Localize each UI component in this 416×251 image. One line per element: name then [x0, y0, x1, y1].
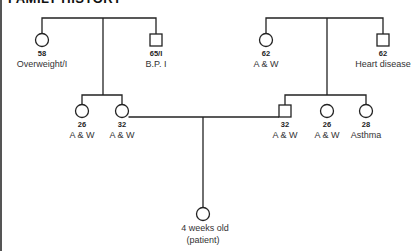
left-sibship-line [82, 95, 122, 105]
paternal-grandfather-symbol [150, 34, 162, 46]
aunt1-age: 26 [78, 120, 86, 129]
father-condition: A & W [272, 130, 297, 140]
pgm-age: 58 [38, 49, 46, 58]
patient-label: (patient) [186, 235, 219, 245]
left-grandparent-line [42, 18, 156, 34]
aunt2-age: 26 [323, 120, 331, 129]
mgf-age: 62 [379, 49, 387, 58]
maternal-grandfather-symbol [377, 34, 389, 46]
maternal-grandmother-symbol [260, 34, 273, 47]
pgf-condition: B.P. I [146, 59, 167, 69]
mother-age: 32 [118, 120, 126, 129]
aunt-26b-symbol [321, 105, 334, 118]
mgm-condition: A & W [253, 59, 278, 69]
aunt-26-symbol [76, 105, 89, 118]
aunt2-condition: A & W [314, 130, 339, 140]
pgf-age: 65/I [150, 49, 163, 58]
aunt-28-symbol [360, 105, 373, 118]
father-symbol [279, 105, 291, 117]
patient-age: 4 weeks old [181, 223, 229, 233]
patient-symbol [197, 208, 210, 221]
right-sibship-line [285, 95, 366, 105]
pgm-condition: Overweight/I [17, 59, 68, 69]
aunt3-condition: Asthma [351, 130, 382, 140]
aunt3-age: 28 [362, 120, 370, 129]
mgm-age: 62 [262, 49, 270, 58]
right-grandparent-line [266, 18, 383, 34]
pedigree-chart: FAMILY HISTORY 58 Overweight/I 65/I B.P.… [0, 0, 416, 251]
mother-symbol [116, 105, 129, 118]
aunt1-condition: A & W [69, 130, 94, 140]
pedigree-lines [0, 0, 416, 251]
mother-condition: A & W [109, 130, 134, 140]
father-age: 32 [281, 120, 289, 129]
paternal-grandmother-symbol [36, 34, 49, 47]
mgf-condition: Heart disease [355, 59, 411, 69]
